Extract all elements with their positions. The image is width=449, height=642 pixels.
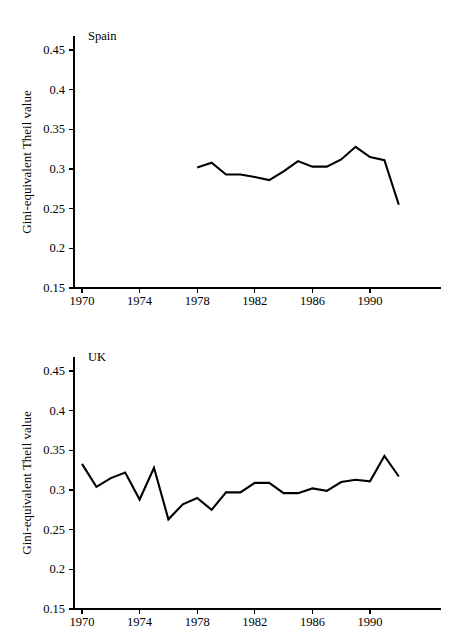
y-tick-label: 0.4 bbox=[49, 404, 65, 418]
y-tick-label: 0.25 bbox=[43, 523, 65, 537]
y-tick-label: 0.15 bbox=[43, 602, 65, 616]
spain-data-line bbox=[197, 147, 399, 205]
x-tick-label: 1990 bbox=[358, 615, 383, 629]
uk-panel: 0.450.40.350.30.250.20.15 19701974197819… bbox=[0, 321, 449, 642]
y-tick-label: 0.45 bbox=[43, 364, 65, 378]
uk-y-axis-label: Gini-equivalent Theil value bbox=[19, 411, 34, 555]
spain-x-axis: 197019741978198219861990 bbox=[70, 288, 442, 308]
x-tick-label: 1986 bbox=[300, 615, 325, 629]
uk-x-axis: 197019741978198219861990 bbox=[70, 609, 442, 629]
y-tick-label: 0.15 bbox=[43, 281, 65, 295]
spain-y-axis-label: Gini-equivalent Theil value bbox=[19, 90, 34, 234]
y-tick-label: 0.2 bbox=[49, 562, 65, 576]
x-tick-label: 1982 bbox=[242, 615, 267, 629]
x-tick-label: 1974 bbox=[127, 615, 153, 629]
y-tick-label: 0.3 bbox=[49, 162, 65, 176]
y-tick-label: 0.35 bbox=[43, 122, 65, 136]
spain-chart-svg: 0.450.40.350.30.250.20.15 19701974197819… bbox=[0, 0, 449, 321]
x-tick-label: 1978 bbox=[185, 615, 210, 629]
spain-x-ticks: 197019741978198219861990 bbox=[70, 288, 383, 308]
uk-y-axis: 0.450.40.350.30.250.20.15 bbox=[43, 357, 74, 616]
x-tick-label: 1970 bbox=[70, 615, 95, 629]
uk-chart-svg: 0.450.40.350.30.250.20.15 19701974197819… bbox=[0, 321, 449, 642]
x-tick-label: 1974 bbox=[127, 294, 153, 308]
uk-y-ticks: 0.450.40.350.30.250.20.15 bbox=[43, 364, 74, 616]
x-tick-label: 1982 bbox=[242, 294, 267, 308]
x-tick-label: 1990 bbox=[358, 294, 383, 308]
y-tick-label: 0.4 bbox=[49, 83, 65, 97]
spain-y-axis: 0.450.40.350.30.250.20.15 bbox=[43, 36, 74, 295]
y-tick-label: 0.3 bbox=[49, 483, 65, 497]
x-tick-label: 1970 bbox=[70, 294, 95, 308]
y-tick-label: 0.2 bbox=[49, 241, 65, 255]
x-tick-label: 1978 bbox=[185, 294, 210, 308]
uk-x-ticks: 197019741978198219861990 bbox=[70, 609, 383, 629]
spain-panel: 0.450.40.350.30.250.20.15 19701974197819… bbox=[0, 0, 449, 321]
x-tick-label: 1986 bbox=[300, 294, 325, 308]
uk-data-line bbox=[82, 456, 399, 519]
y-tick-label: 0.25 bbox=[43, 202, 65, 216]
y-tick-label: 0.45 bbox=[43, 43, 65, 57]
spain-panel-title: Spain bbox=[88, 29, 117, 43]
y-tick-label: 0.35 bbox=[43, 443, 65, 457]
spain-y-ticks: 0.450.40.350.30.250.20.15 bbox=[43, 43, 74, 295]
uk-panel-title: UK bbox=[88, 350, 106, 364]
